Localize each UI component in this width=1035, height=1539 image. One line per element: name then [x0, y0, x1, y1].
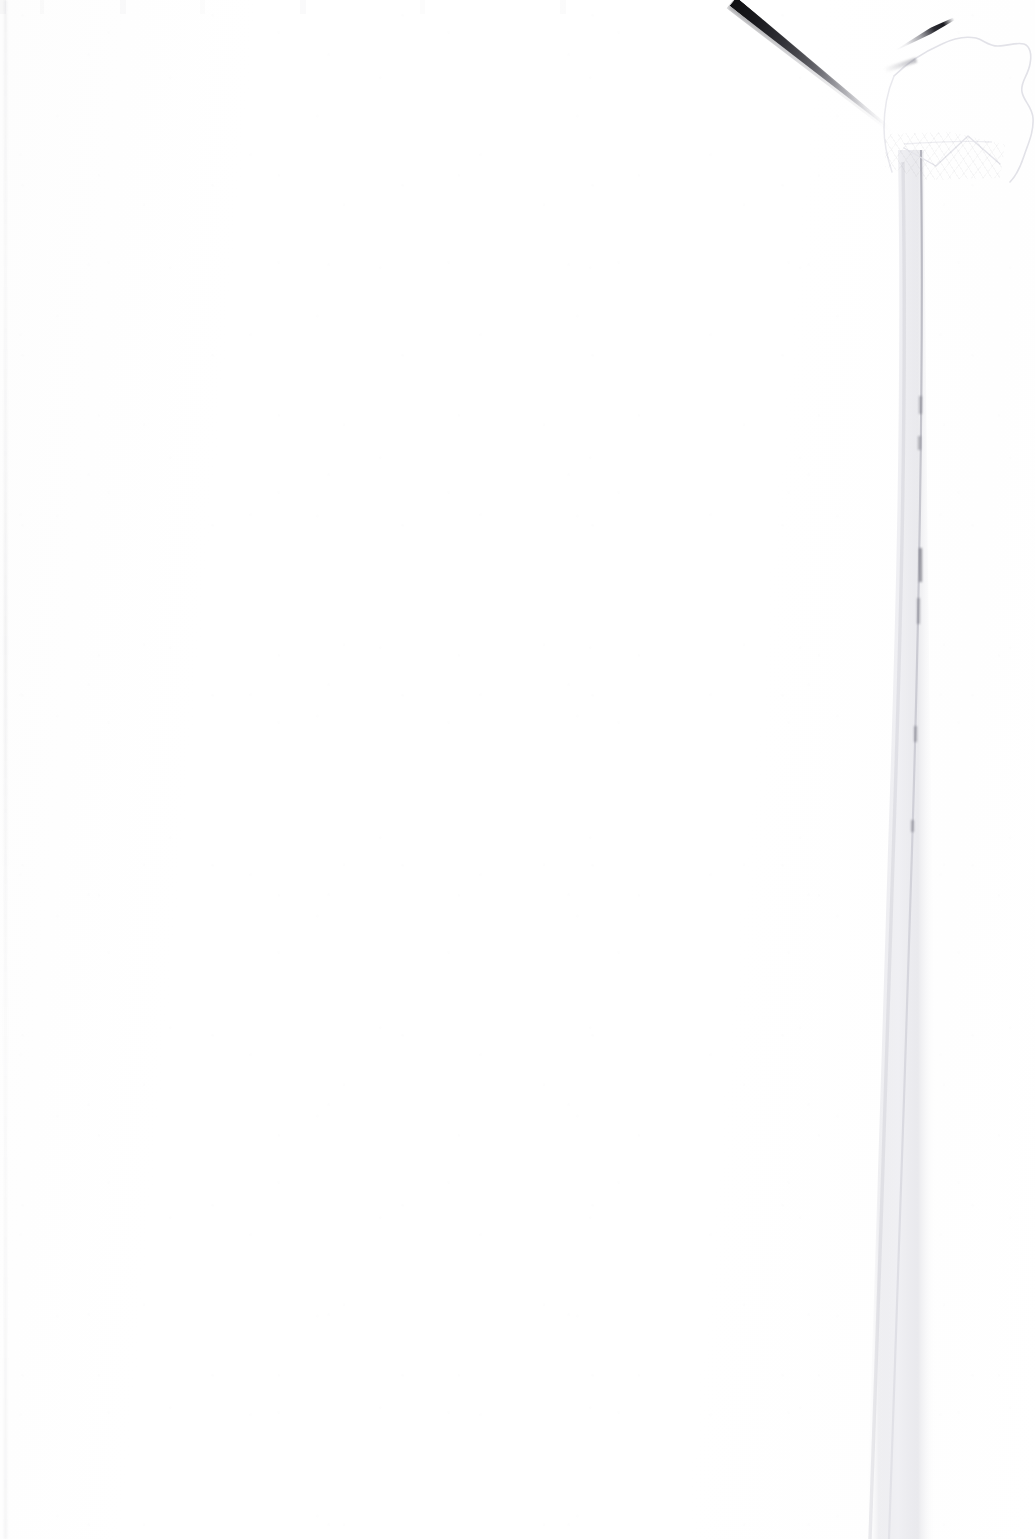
- scanned-document-page: [0, 0, 1035, 1539]
- left-sheet-edge: [4, 0, 7, 1539]
- top-edge-speckle: [0, 0, 700, 14]
- paper-grain-texture: [0, 0, 1035, 1539]
